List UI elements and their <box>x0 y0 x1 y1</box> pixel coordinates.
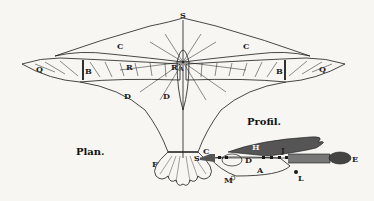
label-c-left: C <box>117 42 123 50</box>
profile-label-e: E <box>352 155 358 163</box>
profile-label-j: J <box>281 146 285 154</box>
plan-left-wing <box>22 58 180 82</box>
plan-caption: Plan. <box>76 146 105 157</box>
label-q-right: Q <box>319 65 326 73</box>
label-c-right: C <box>243 42 249 50</box>
profile-label-a: A <box>257 166 263 174</box>
plan-diagram <box>0 0 374 201</box>
profile-label-c: C <box>203 147 209 155</box>
profile-label-d: D <box>245 156 252 164</box>
profile-diagram <box>200 137 351 180</box>
label-f: F <box>152 160 158 168</box>
profile-label-h: H <box>252 143 260 151</box>
label-r-right: R <box>171 63 178 71</box>
label-b-right: B <box>276 67 283 75</box>
label-d-left: D <box>124 92 131 100</box>
label-s: S <box>180 11 186 19</box>
label-d-right: D <box>163 92 170 100</box>
profile-label-s: S <box>194 154 200 162</box>
profile-label-l: L <box>298 174 304 182</box>
profile-tail-bulb <box>329 152 351 164</box>
profile-caption: Profil. <box>247 116 281 127</box>
label-b-left: B <box>85 67 92 75</box>
label-r-left: R <box>126 63 133 71</box>
label-a-center: A <box>179 66 184 72</box>
profile-label-m: M <box>224 176 233 184</box>
profile-wing <box>228 137 324 156</box>
label-q-left: Q <box>36 65 43 73</box>
